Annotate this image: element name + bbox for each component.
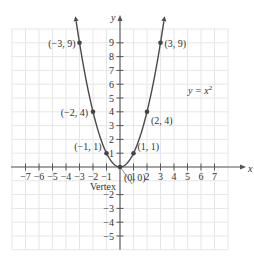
y-tick-label: 7 bbox=[109, 65, 114, 76]
x-axis-label: x bbox=[247, 163, 253, 174]
y-tick-label: −4 bbox=[103, 217, 114, 228]
point-label: (−3, 9) bbox=[48, 38, 75, 50]
x-tick-label: 7 bbox=[212, 171, 217, 182]
data-point bbox=[158, 41, 163, 46]
point-label: (0, 0) bbox=[124, 172, 146, 184]
x-tick-label: −4 bbox=[61, 171, 72, 182]
y-tick-label: 6 bbox=[109, 79, 114, 90]
curve-arrow-icon bbox=[74, 16, 79, 21]
curve-arrow-icon bbox=[161, 16, 166, 21]
data-point bbox=[145, 110, 150, 115]
y-tick-label: 1 bbox=[109, 148, 114, 159]
x-tick-label: −7 bbox=[20, 171, 31, 182]
y-tick-label: 9 bbox=[109, 37, 114, 48]
y-axis-label: y bbox=[110, 12, 116, 23]
x-tick-label: −6 bbox=[34, 171, 45, 182]
x-axis-arrow-icon bbox=[240, 165, 246, 170]
equation-label: y = x2 bbox=[187, 84, 213, 96]
y-tick-label: −3 bbox=[103, 203, 114, 214]
y-tick-label: 4 bbox=[109, 106, 114, 117]
axes bbox=[11, 15, 246, 250]
data-point bbox=[91, 110, 96, 115]
labels: xy−7−6−5−4−3−2−11234567−5−4−3−2123456789… bbox=[20, 12, 253, 242]
x-tick-label: −5 bbox=[47, 171, 58, 182]
point-label: (3, 9) bbox=[165, 38, 187, 50]
x-tick-label: 5 bbox=[185, 171, 190, 182]
x-tick-label: 6 bbox=[199, 171, 204, 182]
point-label: (−2, 4) bbox=[61, 107, 88, 119]
data-point bbox=[77, 41, 82, 46]
data-point bbox=[131, 151, 136, 156]
y-tick-label: 8 bbox=[109, 51, 114, 62]
point-label: (1, 1) bbox=[138, 141, 160, 153]
y-axis-arrow-icon bbox=[118, 15, 123, 21]
point-label: (−1, 1) bbox=[74, 141, 101, 153]
y-tick-label: 3 bbox=[109, 120, 114, 131]
y-tick-label: −5 bbox=[103, 231, 114, 242]
x-tick-label: −3 bbox=[74, 171, 85, 182]
y-tick-label: 2 bbox=[109, 134, 114, 145]
x-tick-label: 3 bbox=[158, 171, 163, 182]
parabola-chart: xy−7−6−5−4−3−2−11234567−5−4−3−2123456789… bbox=[0, 0, 254, 262]
point-label: (2, 4) bbox=[151, 115, 173, 127]
vertex-label: Vertex bbox=[90, 181, 116, 192]
y-tick-label: 5 bbox=[109, 93, 114, 104]
x-tick-label: 4 bbox=[172, 171, 177, 182]
